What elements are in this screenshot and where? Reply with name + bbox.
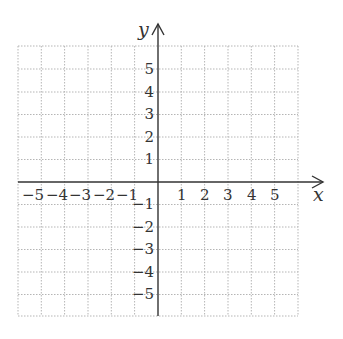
y-tick-p2: 2 — [144, 128, 154, 146]
y-tick-p4: 4 — [144, 83, 154, 101]
x-tick-n2: −2 — [93, 186, 115, 204]
y-tick-n3: −3 — [132, 240, 154, 258]
y-axis-label: y — [137, 18, 149, 40]
y-tick-n4: −4 — [132, 263, 154, 281]
x-tick-p2: 2 — [200, 186, 210, 204]
y-tick-n5: −5 — [132, 285, 154, 303]
y-tick-p3: 3 — [144, 105, 154, 123]
y-tick-n1: −1 — [132, 195, 154, 213]
x-axis-label: x — [313, 183, 324, 205]
x-tick-n4: −4 — [46, 186, 68, 204]
x-tick-p4: 4 — [247, 186, 257, 204]
x-tick-p3: 3 — [223, 186, 233, 204]
y-tick-n2: −2 — [132, 218, 154, 236]
x-tick-p1: 1 — [177, 186, 187, 204]
x-tick-n5: −5 — [22, 186, 44, 204]
y-tick-p1: 1 — [144, 150, 154, 168]
coordinate-plane: y x −5 −4 −3 −2 −1 1 2 3 4 5 5 4 3 2 1 −… — [0, 0, 343, 339]
y-tick-p5: 5 — [144, 60, 154, 78]
x-tick-n3: −3 — [69, 186, 91, 204]
x-tick-p5: 5 — [270, 186, 280, 204]
